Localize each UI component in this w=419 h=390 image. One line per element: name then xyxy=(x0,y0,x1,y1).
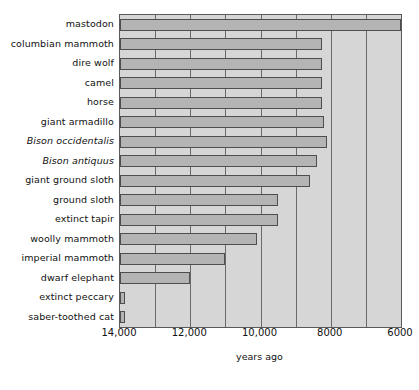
category-label: giant armadillo xyxy=(0,116,114,127)
category-label: extinct peccary xyxy=(0,291,114,302)
category-label: camel xyxy=(0,77,114,88)
category-label: Bison occidentalis xyxy=(0,135,114,146)
x-axis-title: years ago xyxy=(119,351,400,362)
category-label: mastodon xyxy=(0,18,114,29)
category-label-column: mastodoncolumbian mammothdire wolfcamelh… xyxy=(0,14,114,326)
plot-area xyxy=(119,14,402,328)
bar xyxy=(120,233,257,245)
x-tick-label: 8000 xyxy=(317,327,342,338)
category-label: imperial mammoth xyxy=(0,252,114,263)
category-label: woolly mammoth xyxy=(0,233,114,244)
bar xyxy=(120,116,324,128)
x-tick-label: 14,000 xyxy=(102,327,137,338)
bar xyxy=(120,311,125,323)
bar xyxy=(120,19,401,31)
bar xyxy=(120,214,278,226)
bar xyxy=(120,38,322,50)
category-label: ground sloth xyxy=(0,194,114,205)
category-label: dire wolf xyxy=(0,57,114,68)
bar xyxy=(120,136,327,148)
gridline xyxy=(401,15,402,327)
category-label: extinct tapir xyxy=(0,213,114,224)
category-label: columbian mammoth xyxy=(0,38,114,49)
category-label: Bison antiquus xyxy=(0,155,114,166)
category-label: saber-toothed cat xyxy=(0,311,114,322)
bar xyxy=(120,58,322,70)
bar xyxy=(120,194,278,206)
bar xyxy=(120,253,225,265)
category-label: giant ground sloth xyxy=(0,174,114,185)
bar xyxy=(120,175,310,187)
x-tick-label: 12,000 xyxy=(172,327,207,338)
category-label: dwarf elephant xyxy=(0,272,114,283)
x-axis-tick-labels: 14,00012,00010,00080006000 xyxy=(0,327,419,347)
bar xyxy=(120,97,322,109)
gridline xyxy=(331,15,332,327)
x-tick-label: 6000 xyxy=(387,327,412,338)
bar xyxy=(120,292,125,304)
gridline xyxy=(366,15,367,327)
horizontal-bar-chart: mastodoncolumbian mammothdire wolfcamelh… xyxy=(0,0,419,390)
bar xyxy=(120,272,190,284)
category-label: horse xyxy=(0,96,114,107)
bar xyxy=(120,77,322,89)
x-tick-label: 10,000 xyxy=(242,327,277,338)
bar xyxy=(120,155,317,167)
